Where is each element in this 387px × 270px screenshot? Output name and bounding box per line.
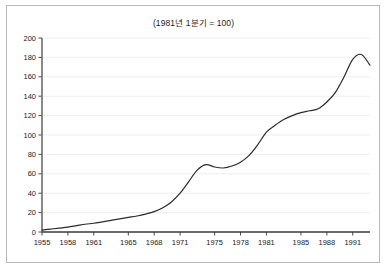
data-series-line — [42, 54, 370, 230]
line-chart-plot: 020406080100120140160180200 195519581961… — [0, 0, 387, 270]
chart-figure: (1981년 1분기 = 100) 0204060801001201401601… — [0, 0, 387, 270]
x-tick-label: 1978 — [232, 238, 249, 247]
y-tick-label: 80 — [28, 150, 36, 159]
y-tick-label: 120 — [23, 111, 36, 120]
x-tick-label: 1971 — [172, 238, 189, 247]
x-tick-label: 1961 — [85, 238, 102, 247]
y-tick-label: 180 — [23, 53, 36, 62]
x-tick-label: 1968 — [146, 238, 163, 247]
x-tick-label: 1955 — [34, 238, 51, 247]
y-tick-label: 100 — [23, 131, 36, 140]
x-tick-label: 1991 — [344, 238, 361, 247]
y-tick-label: 20 — [28, 208, 36, 217]
x-tick-label: 1988 — [318, 238, 335, 247]
x-tick-label: 1958 — [60, 238, 77, 247]
y-tick-label: 140 — [23, 92, 36, 101]
x-tick-label: 1965 — [120, 238, 137, 247]
y-tick-label: 160 — [23, 72, 36, 81]
x-tick-label: 1985 — [293, 238, 310, 247]
y-tick-label: 40 — [28, 189, 36, 198]
x-tick-label: 1981 — [258, 238, 275, 247]
y-tick-label: 200 — [23, 34, 36, 43]
y-tick-label: 0 — [32, 228, 36, 237]
x-axis-ticks: 1955195819611965196819711975197819811985… — [34, 232, 361, 247]
y-axis-ticks: 020406080100120140160180200 — [23, 34, 42, 237]
y-tick-label: 60 — [28, 169, 36, 178]
gridlines — [43, 38, 370, 213]
x-tick-label: 1975 — [206, 238, 223, 247]
